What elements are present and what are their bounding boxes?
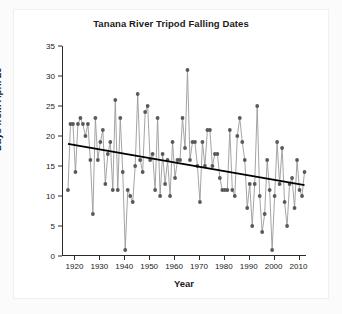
data-point — [74, 170, 78, 174]
data-point — [235, 134, 239, 138]
x-tick-mark — [149, 256, 150, 260]
data-point — [156, 116, 160, 120]
data-point — [131, 200, 135, 204]
data-point — [91, 212, 95, 216]
data-point — [186, 68, 190, 72]
data-point — [128, 194, 132, 198]
series-canvas — [63, 46, 307, 256]
x-tick-label: 2010 — [279, 262, 319, 271]
x-tick-mark — [274, 256, 275, 260]
data-point — [283, 200, 287, 204]
data-point — [245, 206, 249, 210]
data-point — [161, 152, 165, 156]
data-point — [121, 170, 125, 174]
data-point — [151, 152, 155, 156]
data-point — [238, 116, 242, 120]
data-point — [183, 146, 187, 150]
data-point — [178, 158, 182, 162]
data-point — [173, 176, 177, 180]
data-point — [163, 182, 167, 186]
data-point — [260, 230, 264, 234]
data-point — [250, 224, 254, 228]
data-point — [255, 104, 259, 108]
x-tick-mark — [299, 256, 300, 260]
data-point — [193, 140, 197, 144]
data-point — [103, 182, 107, 186]
data-point — [106, 152, 110, 156]
data-point — [233, 194, 237, 198]
data-point — [96, 158, 100, 162]
data-point — [86, 122, 90, 126]
data-point — [278, 182, 282, 186]
data-point — [258, 194, 262, 198]
data-point — [116, 188, 120, 192]
data-point — [240, 140, 244, 144]
data-point — [210, 164, 214, 168]
data-point — [273, 194, 277, 198]
data-point — [98, 140, 102, 144]
data-point — [208, 128, 212, 132]
x-tick-mark — [124, 256, 125, 260]
data-point — [290, 176, 294, 180]
data-point — [136, 92, 140, 96]
data-point — [270, 248, 274, 252]
data-point — [248, 182, 252, 186]
data-point — [298, 188, 302, 192]
data-point — [253, 182, 257, 186]
x-tick-mark — [74, 256, 75, 260]
x-tick-mark — [199, 256, 200, 260]
data-point — [218, 176, 222, 180]
data-point — [101, 128, 105, 132]
data-point — [293, 206, 297, 210]
data-point — [198, 200, 202, 204]
data-point — [243, 158, 247, 162]
data-point — [158, 194, 162, 198]
data-point — [188, 158, 192, 162]
x-tick-mark — [174, 256, 175, 260]
data-point — [230, 188, 234, 192]
data-point — [111, 188, 115, 192]
data-point — [146, 104, 150, 108]
data-point — [275, 140, 279, 144]
data-point — [225, 188, 229, 192]
data-point — [228, 128, 232, 132]
data-point — [265, 158, 269, 162]
data-point — [268, 188, 272, 192]
data-point — [300, 194, 304, 198]
data-point — [133, 164, 137, 168]
data-point — [201, 140, 205, 144]
data-point — [215, 152, 219, 156]
data-point — [108, 140, 112, 144]
plot-area — [62, 46, 306, 256]
data-point — [123, 248, 127, 252]
x-tick-mark — [249, 256, 250, 260]
data-point — [76, 122, 80, 126]
data-point — [285, 224, 289, 228]
data-point — [168, 194, 172, 198]
data-point — [81, 122, 85, 126]
trend-line — [68, 144, 305, 185]
data-point — [126, 188, 130, 192]
x-tick-mark — [99, 256, 100, 260]
data-point — [88, 158, 92, 162]
data-point — [141, 170, 145, 174]
data-point — [181, 116, 185, 120]
data-point — [263, 212, 267, 216]
chart-figure: Tanana River Tripod Falling Dates Days f… — [0, 0, 342, 314]
data-point — [118, 116, 122, 120]
data-point — [84, 134, 88, 138]
data-point — [303, 170, 307, 174]
data-point — [113, 98, 117, 102]
data-point — [171, 140, 175, 144]
data-point — [295, 158, 299, 162]
data-point — [79, 116, 83, 120]
data-point — [138, 158, 142, 162]
data-point — [71, 122, 75, 126]
data-point — [93, 116, 97, 120]
data-point — [153, 188, 157, 192]
data-point — [66, 188, 70, 192]
x-tick-mark — [224, 256, 225, 260]
data-point — [280, 146, 284, 150]
data-point — [143, 110, 147, 114]
